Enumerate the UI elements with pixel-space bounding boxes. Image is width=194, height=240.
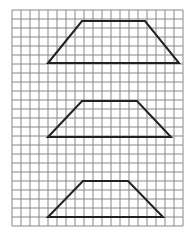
trapezoid-1: [48, 21, 179, 63]
trapezoid-shapes: [48, 21, 179, 217]
grid-lines: [12, 10, 183, 226]
grid-diagram: [0, 0, 194, 240]
